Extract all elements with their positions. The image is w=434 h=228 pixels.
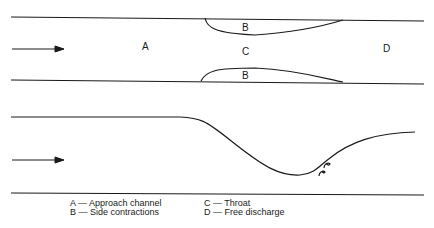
arrow-right-icon xyxy=(55,157,64,163)
label-approach-channel: A xyxy=(142,41,149,52)
flume-diagram xyxy=(0,0,434,228)
bottom-side-contraction xyxy=(201,68,343,82)
channel-floor xyxy=(11,193,424,195)
plan-top-wall xyxy=(11,17,424,21)
legend-item-d: D — Free discharge xyxy=(204,208,285,217)
jump-curl-1 xyxy=(319,171,325,176)
label-side-contraction-bottom: B xyxy=(242,70,249,81)
arrow-right-icon xyxy=(55,46,64,52)
jump-curl-2 xyxy=(324,163,330,168)
plan-bottom-wall xyxy=(11,80,424,84)
label-side-contraction-top: B xyxy=(242,22,249,33)
water-surface-profile xyxy=(11,117,415,175)
label-free-discharge: D xyxy=(383,43,390,54)
label-throat: C xyxy=(242,46,249,57)
legend-item-b: B — Side contractions xyxy=(70,208,159,217)
